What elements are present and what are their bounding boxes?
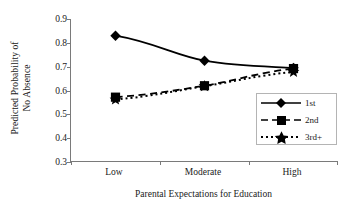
x-tick-label-moderate: Moderate [185,166,221,178]
y-axis-title-line1: Predicted Probability of [9,41,21,134]
data-point-1st [199,56,209,66]
x-axis-tick-labels: Low Moderate High [70,166,337,182]
data-point-1st [110,30,120,40]
y-axis-title-line2: No Absence [21,41,33,134]
y-tick-label: 0.6 [41,86,67,96]
legend-label: 2nd [305,115,319,125]
chart-legend: 1st 2nd 3rd+ [256,93,337,145]
y-tick-label: 0.3 [41,157,67,167]
legend-label: 3rd+ [305,132,322,142]
y-axis-title: Predicted Probability of No Absence [0,0,42,175]
x-axis-title: Parental Expectations for Education [70,188,337,200]
legend-swatch-square-icon [257,112,305,128]
legend-swatch-diamond-icon [257,95,305,111]
legend-item-1st[interactable]: 1st [257,94,338,111]
chart-figure: Predicted Probability of No Absence 0.3 … [0,0,348,212]
legend-item-2nd[interactable]: 2nd [257,111,338,128]
y-tick-label: 0.8 [41,38,67,48]
y-tick-label: 0.5 [41,109,67,119]
legend-swatch-star-icon [257,129,305,145]
legend-item-3rd-plus[interactable]: 3rd+ [257,128,338,145]
x-tick-label-high: High [283,166,302,178]
legend-label: 1st [305,98,316,108]
x-tick-label-low: Low [105,166,122,178]
y-tick-label: 0.7 [41,62,67,72]
y-tick-label: 0.9 [41,14,67,24]
y-axis-tick-labels: 0.3 0.4 0.5 0.6 0.7 0.8 0.9 [40,0,67,212]
y-tick-label: 0.4 [41,133,67,143]
